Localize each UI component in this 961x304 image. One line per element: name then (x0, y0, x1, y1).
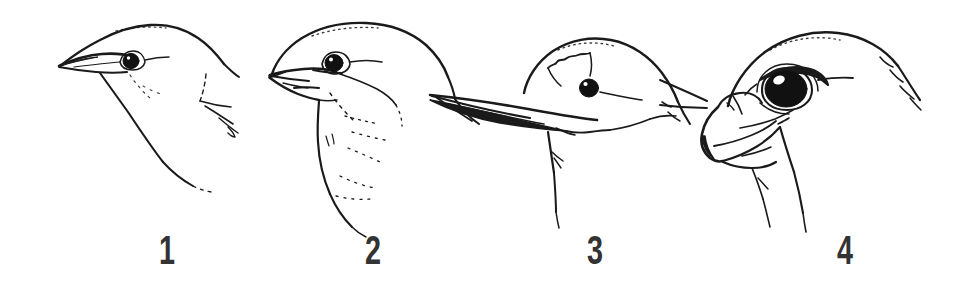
eye-highlight-3 (583, 82, 587, 86)
eye-highlight-1 (127, 56, 130, 59)
bird-head-profiles-figure: 1 2 3 4 (0, 0, 961, 304)
bill-base-line-2 (319, 100, 337, 101)
panel-number-4[interactable]: 4 (823, 230, 866, 270)
eye-3 (580, 79, 599, 97)
figure-illustration (0, 0, 961, 304)
panel-number-1[interactable]: 1 (145, 230, 188, 270)
eye-4 (765, 71, 807, 107)
panel-number-2[interactable]: 2 (351, 230, 394, 270)
panel-number-3[interactable]: 3 (573, 230, 616, 270)
eye-1 (123, 53, 139, 68)
eye-highlight-2 (329, 58, 333, 62)
figure-background (0, 0, 961, 304)
eye-2 (325, 55, 343, 72)
